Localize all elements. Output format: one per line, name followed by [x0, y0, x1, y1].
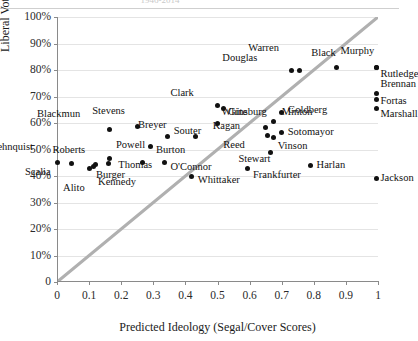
x-axis-tick-label: 0.8 — [297, 290, 331, 301]
data-point — [245, 166, 250, 171]
data-point-label: Murphy — [340, 45, 374, 56]
data-point — [271, 135, 276, 140]
x-axis-tick-label: 1 — [361, 290, 395, 301]
x-axis-tick-label: 0.7 — [265, 290, 299, 301]
x-axis-tick-label: 0.1 — [72, 290, 106, 301]
y-axis-tick-label: 90% — [3, 38, 51, 49]
y-axis-tick-label: 100% — [3, 11, 51, 22]
x-axis-tick-label: 0.2 — [104, 290, 138, 301]
data-point-label: Alito — [63, 182, 85, 193]
data-point-label: Breyer — [138, 119, 167, 130]
data-point-label: Goldberg — [288, 104, 327, 115]
data-point-label: Clark — [171, 87, 194, 98]
data-point — [265, 133, 270, 138]
data-point — [69, 161, 74, 166]
data-point — [374, 106, 379, 111]
y-axis-tick-label: 20% — [3, 223, 51, 234]
gridline — [57, 150, 378, 151]
y-axis-tick-label: 10% — [3, 250, 51, 261]
gridline — [57, 44, 378, 45]
data-point-label: Thomas — [118, 159, 152, 170]
gridline — [57, 17, 378, 18]
data-point-label: Reed — [223, 139, 245, 150]
data-point — [91, 164, 96, 169]
data-point-label: Kagan — [213, 120, 240, 131]
data-point — [374, 65, 379, 70]
data-point — [107, 127, 112, 132]
data-point — [215, 103, 220, 108]
data-point-label: Frankfurter — [253, 169, 301, 180]
y-axis-tick-label: 80% — [3, 64, 51, 75]
y-axis-tick-label: 30% — [3, 197, 51, 208]
data-point-label: Harlan — [317, 159, 346, 170]
data-point — [106, 161, 111, 166]
y-axis-tick-label: 60% — [3, 117, 51, 128]
data-point — [289, 68, 294, 73]
data-point — [374, 176, 379, 181]
data-point-label: Stevens — [92, 105, 125, 116]
data-point-label: Whittaker — [198, 174, 240, 185]
data-point — [334, 65, 339, 70]
gridline — [57, 70, 378, 71]
gridline — [57, 203, 378, 204]
gridline — [57, 229, 378, 230]
x-axis-tick-label: 0 — [40, 290, 74, 301]
data-point-label: Roberts — [53, 144, 86, 155]
data-point-label: Blackmun — [37, 108, 80, 119]
data-point — [297, 68, 302, 73]
data-point-label: Fortas — [380, 95, 406, 106]
data-point — [279, 130, 284, 135]
y-axis-tick-label: 70% — [3, 91, 51, 102]
data-point-label: Douglas — [222, 52, 257, 63]
data-point-label: Souter — [174, 125, 201, 136]
data-point — [55, 160, 60, 165]
x-axis-tick-label: 0.5 — [201, 290, 235, 301]
x-axis-tick — [378, 281, 379, 285]
data-point — [374, 91, 379, 96]
y-axis-tick-label: 0 — [3, 276, 51, 287]
cropped-title-remnant: 1946-2014 — [100, 0, 220, 4]
x-axis-tick-label: 0.3 — [136, 290, 170, 301]
data-point-label: Stewart — [238, 153, 270, 164]
x-axis-tick-label: 0.6 — [233, 290, 267, 301]
x-axis-tick-label: 0.4 — [168, 290, 202, 301]
data-point — [308, 163, 313, 168]
data-point — [148, 144, 153, 149]
data-point — [162, 160, 167, 165]
data-point-label: Sotomayor — [288, 126, 334, 137]
data-point-label: Vinson — [278, 140, 308, 151]
data-point-label: Kennedy — [98, 176, 136, 187]
data-point-label: Powell — [116, 139, 145, 150]
data-point-label: Brennan — [380, 78, 416, 89]
data-point-label: O'Connor — [171, 161, 212, 172]
data-point-label: Jackson — [380, 172, 413, 183]
plot-area: RehnquistRobertsScaliaAlitoBurgerPowellT… — [57, 17, 378, 282]
data-point-label: Burton — [156, 144, 185, 155]
data-point-label: White — [222, 106, 248, 117]
data-point-label: Warren — [248, 42, 279, 53]
data-point-label: Rehnquist — [0, 141, 33, 152]
data-point-label: Marshall — [380, 108, 417, 119]
gridline — [57, 97, 378, 98]
data-point — [374, 97, 379, 102]
data-point-label: Scalia — [25, 166, 51, 177]
top-divider — [0, 8, 399, 9]
x-axis-tick-label: 0.9 — [329, 290, 363, 301]
data-point — [165, 134, 170, 139]
x-axis-title: Predicted Ideology (Segal/Cover Scores) — [57, 320, 378, 335]
x-axis-line — [57, 281, 378, 282]
data-point — [189, 174, 194, 179]
data-point — [263, 125, 268, 130]
gridline — [57, 256, 378, 257]
data-point-label: Black — [311, 47, 336, 58]
